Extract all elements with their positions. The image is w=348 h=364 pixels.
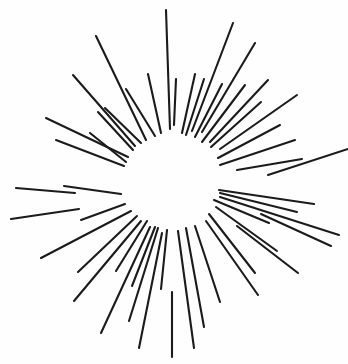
starburst-canvas	[0, 0, 348, 364]
starburst-figure	[0, 0, 348, 364]
figure-background	[0, 0, 348, 364]
